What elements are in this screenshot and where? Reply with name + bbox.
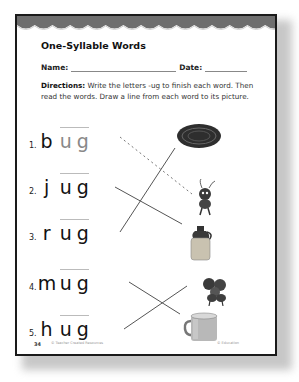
match-line-mug xyxy=(129,282,180,314)
mug-icon xyxy=(182,309,222,343)
jug-icon xyxy=(187,224,215,262)
worksheet-page: One-Syllable Words Name: Date: Direction… xyxy=(15,14,277,356)
page-number: 34 xyxy=(34,341,41,347)
bugs-icon xyxy=(200,274,230,308)
footer-right-text: © Education xyxy=(217,341,239,345)
footer-left-text: © Teacher Created Resources xyxy=(51,341,103,345)
bug-icon xyxy=(192,178,220,218)
rug-icon xyxy=(175,121,223,151)
match-line-hug xyxy=(124,286,187,329)
match-line-rug xyxy=(120,148,175,232)
match-line-jug xyxy=(115,187,182,224)
matching-lines xyxy=(17,16,277,356)
